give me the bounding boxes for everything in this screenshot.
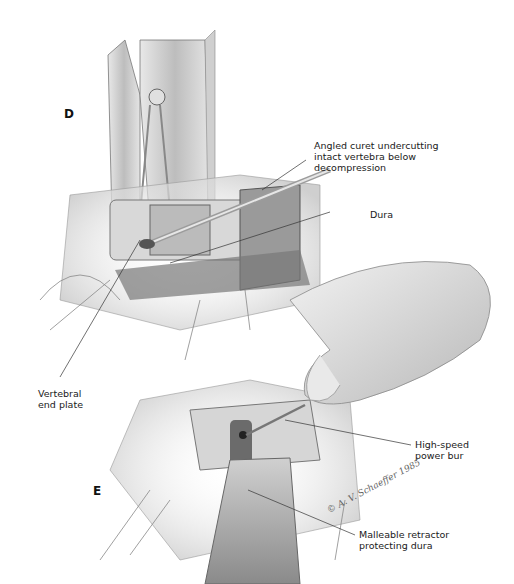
label-high-speed-power-bur: High-speed power bur <box>415 439 469 461</box>
label-dura: Dura <box>370 209 393 220</box>
panel-letter-e: E <box>93 484 101 498</box>
label-vertebral-end-plate: Vertebral end plate <box>38 388 83 410</box>
label-malleable-retractor: Malleable retractor protecting dura <box>359 529 449 551</box>
label-angled-curet: Angled curet undercutting intact vertebr… <box>314 140 439 173</box>
panel-d-drawing <box>40 30 330 377</box>
panel-letter-d: D <box>64 107 74 121</box>
surgical-illustration <box>0 0 514 584</box>
